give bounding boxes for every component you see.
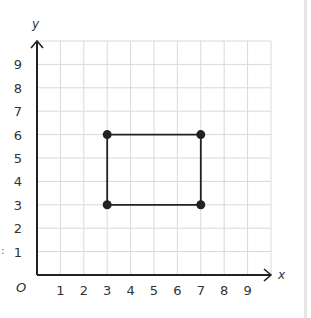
y-tick-label: 6 (14, 128, 22, 143)
y-tick-label: 1 (14, 245, 22, 260)
y-axis-label: y (31, 17, 40, 31)
y-tick-label: 3 (14, 198, 22, 213)
axes (31, 41, 271, 281)
y-tick-label: 2 (14, 221, 22, 236)
coordinate-grid-chart: 123456789123456789 x y O (0, 0, 311, 318)
x-tick-label: 3 (103, 283, 111, 298)
y-tick-label: 5 (14, 151, 22, 166)
x-tick-label: 9 (243, 283, 251, 298)
y-tick-label: 9 (14, 57, 22, 72)
vertex-point (196, 130, 205, 139)
x-tick-label: 5 (150, 283, 158, 298)
y-tick-label: 7 (14, 104, 22, 119)
x-tick-label: 2 (80, 283, 88, 298)
y-tick-label: 4 (14, 174, 22, 189)
x-tick-label: 1 (56, 283, 64, 298)
x-tick-label: 8 (220, 283, 228, 298)
x-tick-label: 4 (126, 283, 134, 298)
x-tick-label: 6 (173, 283, 181, 298)
x-tick-label: 7 (197, 283, 205, 298)
vertex-point (196, 200, 205, 209)
vertex-point (103, 130, 112, 139)
grid-lines (37, 41, 271, 275)
vertex-point (103, 200, 112, 209)
origin-label: O (16, 280, 26, 295)
x-axis-label: x (277, 268, 286, 282)
tick-labels: 123456789123456789 (14, 57, 252, 298)
y-tick-label: 8 (14, 81, 22, 96)
